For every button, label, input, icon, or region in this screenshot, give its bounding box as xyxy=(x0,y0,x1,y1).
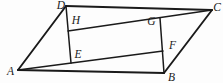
vertex-label-E: E xyxy=(73,48,81,60)
vertex-label-C: C xyxy=(213,1,221,13)
vertex-label-H: H xyxy=(71,14,81,26)
vertex-label-B: B xyxy=(168,71,175,83)
segment-AF xyxy=(18,51,163,70)
segment-BG xyxy=(160,18,164,73)
segment-DE xyxy=(66,6,71,63)
vertex-label-G: G xyxy=(147,15,156,27)
vertex-label-A: A xyxy=(6,65,15,77)
geometry-figure: ABCDEFGH xyxy=(0,0,223,82)
segment-AB xyxy=(18,70,164,73)
segment-DA xyxy=(18,6,66,70)
segment-CH xyxy=(68,10,212,31)
figure-canvas: ABCDEFGH xyxy=(0,0,223,82)
vertex-label-F: F xyxy=(168,39,177,51)
segment-CD xyxy=(66,6,212,10)
vertex-label-D: D xyxy=(56,0,66,11)
